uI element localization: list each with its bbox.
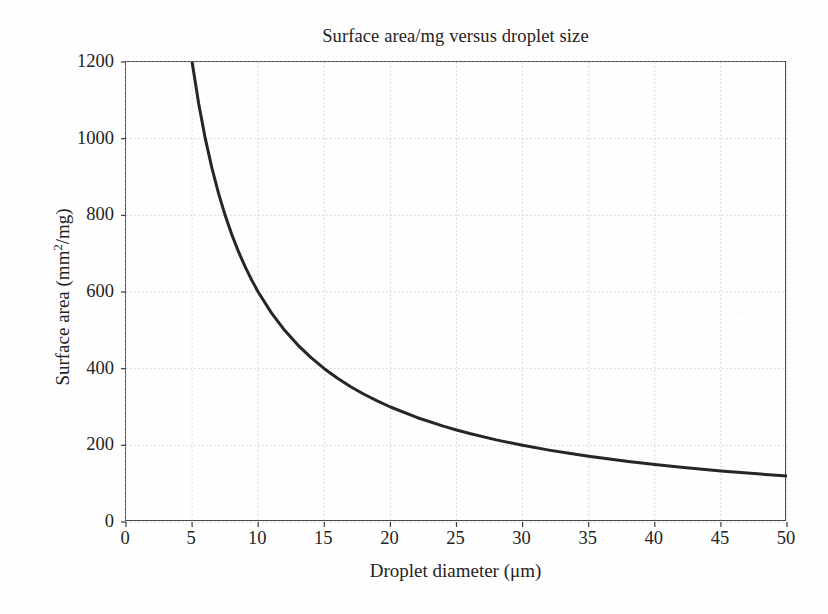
x-axis-tick-label: 35 — [578, 528, 597, 549]
data-curve-layer — [126, 62, 787, 522]
x-axis-tick-label: 15 — [314, 528, 333, 549]
x-axis-tick-label: 30 — [512, 528, 531, 549]
y-axis-label-prefix: Surface area (mm — [52, 251, 73, 386]
y-axis-tick-label: 800 — [86, 204, 114, 225]
y-axis-label-suffix: /mg) — [52, 208, 73, 244]
x-axis-tick-label: 0 — [120, 528, 129, 549]
x-axis-tick-label: 40 — [645, 528, 664, 549]
x-axis-tick-label: 45 — [711, 528, 730, 549]
x-axis-tick-label: 10 — [248, 528, 267, 549]
x-axis-tick-label: 20 — [380, 528, 399, 549]
data-series-line — [192, 62, 787, 476]
y-axis-tick-label: 400 — [86, 357, 114, 378]
plot-area — [125, 61, 786, 521]
x-axis-label: Droplet diameter (μm) — [125, 560, 786, 582]
y-axis-tick-label: 1000 — [77, 127, 114, 148]
y-axis-label: Surface area (mm2/mg) — [52, 67, 74, 527]
chart-title: Surface area/mg versus droplet size — [125, 26, 786, 47]
y-axis-tick-label: 0 — [105, 511, 114, 532]
figure-page: Surface area/mg versus droplet size 0200… — [0, 0, 828, 614]
x-axis-tick-label: 5 — [186, 528, 195, 549]
x-axis-tick-label: 25 — [446, 528, 465, 549]
x-axis-tick-labels: 05101520253035404550 — [125, 528, 786, 554]
x-axis-tick-label: 50 — [777, 528, 796, 549]
y-axis-tick-label: 200 — [86, 434, 114, 455]
y-axis-tick-label: 1200 — [77, 51, 114, 72]
y-axis-label-superscript: 2 — [51, 244, 65, 250]
y-axis-tick-label: 600 — [86, 281, 114, 302]
